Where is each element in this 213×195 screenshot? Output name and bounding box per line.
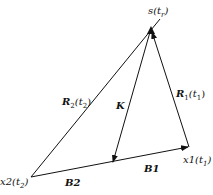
b1-label: B1: [144, 164, 159, 174]
x2-label: x2(t2): [0, 177, 28, 190]
r2-label: R2(t2): [62, 97, 91, 110]
k-label: K: [116, 101, 125, 111]
k-arrow: [113, 32, 150, 162]
source-label: s(tr): [148, 6, 168, 19]
vector-diagram: s(tr) R1(t1) R2(t2) K B1 B2 x1(t1) x2(t2…: [0, 0, 213, 195]
r1-label: R1(t1): [176, 89, 205, 102]
x1-label: x1(t1): [183, 155, 211, 168]
source-tick: [151, 19, 160, 30]
baseline-b2-b1: [31, 147, 188, 177]
b2-label: B2: [65, 178, 80, 188]
